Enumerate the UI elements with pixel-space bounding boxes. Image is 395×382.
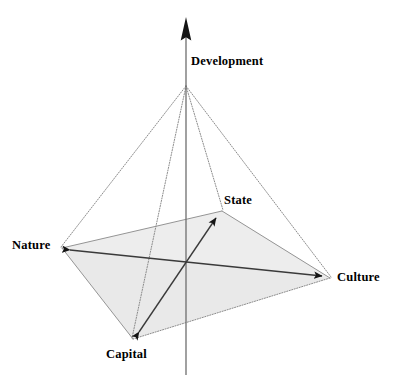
edge-apex-state bbox=[186, 86, 223, 210]
diagram-canvas: Development State Nature Culture Capital bbox=[0, 0, 395, 382]
development-arrowhead-icon bbox=[181, 17, 192, 41]
label-nature: Nature bbox=[12, 239, 50, 252]
label-state: State bbox=[224, 194, 252, 207]
label-culture: Culture bbox=[337, 271, 380, 284]
edge-apex-nature bbox=[61, 86, 186, 247]
label-capital: Capital bbox=[106, 348, 147, 361]
label-development: Development bbox=[191, 55, 263, 68]
